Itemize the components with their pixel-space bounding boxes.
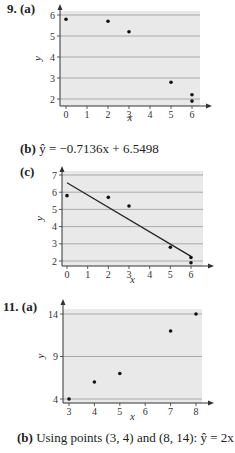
svg-text:4: 4 <box>92 406 97 417</box>
svg-text:3: 3 <box>67 406 72 417</box>
svg-text:8: 8 <box>194 406 199 417</box>
svg-text:9: 9 <box>53 351 58 362</box>
svg-text:7: 7 <box>168 406 173 417</box>
part-b-label: (b) <box>17 430 33 445</box>
svg-text:x: x <box>129 410 135 422</box>
problem-11b-equation: (b) Using points (3, 4) and (8, 14): ŷ =… <box>17 430 235 446</box>
scatter-chart-11a: 4914345678xy <box>0 0 235 453</box>
svg-text:14: 14 <box>48 309 58 320</box>
svg-text:5: 5 <box>117 406 122 417</box>
svg-text:6: 6 <box>143 406 148 417</box>
svg-text:y: y <box>34 353 46 359</box>
svg-text:4: 4 <box>53 394 58 405</box>
line-equation: Using points (3, 4) and (8, 14): ŷ = 2x … <box>36 430 235 445</box>
